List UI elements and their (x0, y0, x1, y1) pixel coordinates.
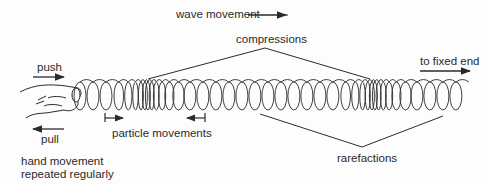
hand-icon (20, 85, 81, 118)
longitudinal-wave-diagram: wave movement compressions push to fixed… (0, 0, 488, 184)
to-fixed-end-label: to fixed end (420, 55, 479, 68)
hand-movement-label-line2: repeated regularly (21, 168, 114, 181)
rarefactions-callout-lines (260, 114, 443, 147)
spring-coils (74, 80, 469, 111)
hand-movement-label-line1: hand movement (21, 155, 103, 168)
particle-movements-label: particle movements (112, 127, 212, 140)
push-label: push (37, 61, 62, 74)
particle-movement-markers (105, 113, 205, 122)
rarefactions-label: rarefactions (337, 152, 397, 165)
wave-movement-label: wave movement (176, 8, 260, 21)
compressions-callout-lines (148, 48, 370, 79)
pull-label: pull (41, 133, 59, 146)
compressions-label: compressions (236, 33, 307, 46)
